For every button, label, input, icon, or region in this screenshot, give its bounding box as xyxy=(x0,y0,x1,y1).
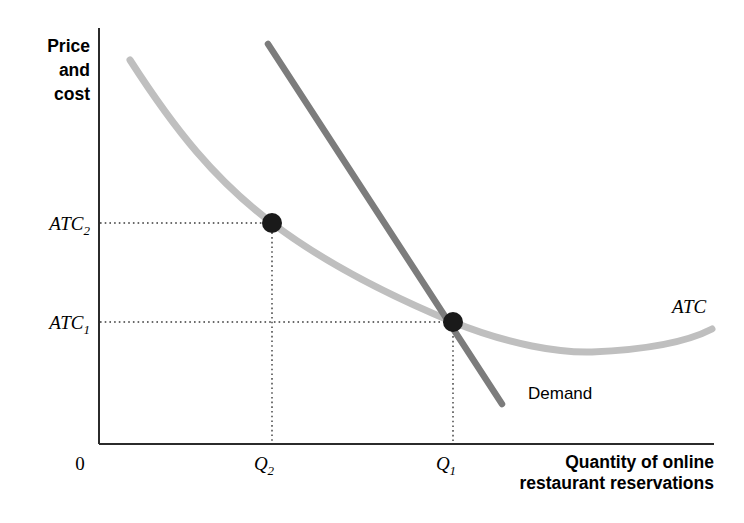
x-axis-title-line-2: restaurant reservations xyxy=(519,473,714,493)
y-tick-label-atc1: ATC1 xyxy=(47,312,90,337)
atc-curve-label: ATC xyxy=(670,296,706,317)
x-tick-q1-subscript: 1 xyxy=(450,463,457,478)
y-tick-atc1-subscript: 1 xyxy=(84,322,91,337)
y-tick-atc2-base: ATC xyxy=(47,213,83,234)
y-tick-atc2-subscript: 2 xyxy=(84,223,91,238)
demand-curve xyxy=(268,44,502,404)
demand-curve-label: Demand xyxy=(528,384,592,403)
x-tick-q2-subscript: 2 xyxy=(268,463,275,478)
x-tick-label-q2: Q2 xyxy=(254,453,275,478)
y-axis-title-line-3: cost xyxy=(54,84,90,104)
y-axis-title-line-2: and xyxy=(59,60,90,80)
atc-curve xyxy=(130,60,712,352)
x-tick-label-q1: Q1 xyxy=(436,453,456,478)
data-point-q1 xyxy=(443,312,463,332)
y-tick-label-atc2: ATC2 xyxy=(47,213,90,238)
data-point-q2 xyxy=(262,213,282,233)
x-tick-q1-base: Q xyxy=(436,453,450,474)
y-tick-atc1-base: ATC xyxy=(47,312,83,333)
x-axis-title-line-1: Quantity of online xyxy=(565,452,714,472)
y-axis-title-line-1: Price xyxy=(47,36,90,56)
economics-chart-figure: Price and cost Quantity of online restau… xyxy=(0,0,744,523)
origin-label: 0 xyxy=(75,453,85,474)
x-tick-q2-base: Q xyxy=(254,453,268,474)
chart-canvas: Price and cost Quantity of online restau… xyxy=(0,0,744,523)
